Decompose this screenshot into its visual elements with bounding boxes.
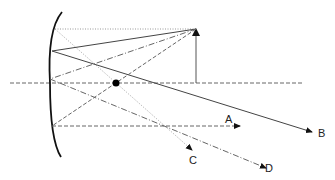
ray-solid-reflected bbox=[52, 51, 312, 132]
concave-mirror bbox=[50, 12, 63, 157]
ray-dashdot-reflected bbox=[50, 79, 266, 168]
focal-point bbox=[113, 80, 120, 87]
label-c: C bbox=[189, 154, 197, 166]
ray-dashdot-incident bbox=[50, 29, 196, 79]
diagram-canvas: A B C D bbox=[0, 0, 335, 180]
label-d: D bbox=[265, 162, 273, 174]
label-b: B bbox=[318, 127, 325, 139]
ray-dashed-incident bbox=[52, 29, 196, 126]
label-a: A bbox=[225, 113, 233, 125]
ray-diagram: A B C D bbox=[0, 0, 335, 180]
ray-solid-incident bbox=[52, 29, 196, 51]
